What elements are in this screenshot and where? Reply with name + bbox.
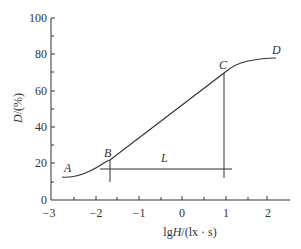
y-axis-title: D/(%) <box>11 93 25 124</box>
x-tick-label: −2 <box>90 206 103 220</box>
y-tick-label: 60 <box>35 84 47 98</box>
x-axis-title: lgH/(lx · s) <box>163 225 216 239</box>
chart: 100 80 60 40 20 0 −3 −2 −1 0 1 2 lgH/(lx… <box>0 0 301 249</box>
y-tick-label: 20 <box>35 156 47 170</box>
y-tick-label: 100 <box>29 11 47 25</box>
x-ticks <box>74 196 267 200</box>
point-label-a: A <box>63 161 72 175</box>
point-label-b: B <box>104 146 112 160</box>
y-tick-label: 40 <box>35 120 47 134</box>
x-tick-label: 1 <box>223 206 229 220</box>
point-label-d: D <box>271 43 281 57</box>
segment-label-l: L <box>160 151 168 165</box>
x-tick-label: 2 <box>265 206 271 220</box>
y-ticks <box>51 18 55 182</box>
x-tick-label: −1 <box>133 206 146 220</box>
characteristic-curve <box>62 58 276 177</box>
point-label-c: C <box>219 58 228 72</box>
x-tick-label: 0 <box>179 206 185 220</box>
y-tick-label: 0 <box>41 193 47 207</box>
y-tick-label: 80 <box>35 47 47 61</box>
x-tick-label: −3 <box>43 206 56 220</box>
